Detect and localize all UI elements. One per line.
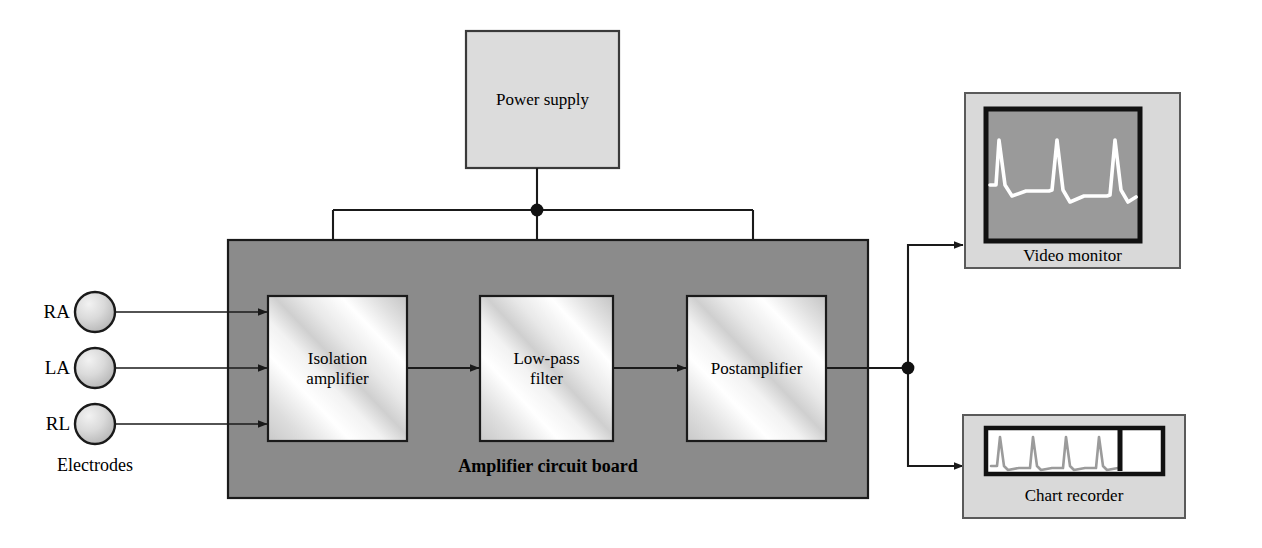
- block-label-postamplifier: Postamplifier: [680, 359, 833, 379]
- electrode-label-rl: RL: [20, 413, 70, 435]
- electrode-rl: [75, 404, 115, 444]
- electrode-label-ra: RA: [20, 301, 70, 323]
- power-supply-label: Power supply: [466, 90, 619, 110]
- electrodes-caption: Electrodes: [20, 455, 170, 476]
- electrode-label-la: LA: [20, 357, 70, 379]
- output-junction-dot: [902, 362, 915, 375]
- electrode-la: [75, 348, 115, 388]
- video-monitor-label: Video monitor: [965, 246, 1180, 266]
- video-monitor: [965, 93, 1180, 268]
- electrode-ra: [75, 292, 115, 332]
- block-label-isolation-amplifier-line2: amplifier: [268, 369, 407, 389]
- amplifier-circuit-board-label: Amplifier circuit board: [228, 456, 868, 477]
- block-label-isolation-amplifier-line1: Isolation: [268, 349, 407, 369]
- block-label-low-pass-filter-line2: filter: [480, 369, 613, 389]
- power-bus-junction-dot: [531, 204, 544, 217]
- block-label-low-pass-filter-line1: Low-pass: [480, 349, 613, 369]
- ecg-system-diagram: Power supply Isolation amplifier Low-pas…: [0, 0, 1262, 548]
- chart-recorder-label: Chart recorder: [963, 486, 1185, 506]
